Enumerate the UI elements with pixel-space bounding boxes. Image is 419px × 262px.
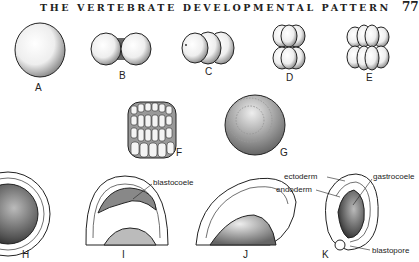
annotation-endoderm: endoderm [276, 185, 312, 194]
panel-label-h: H [22, 249, 29, 260]
panel-label-e: E [366, 72, 373, 83]
panel-label-a: A [35, 82, 42, 93]
panel-e-sixteen-cell [347, 25, 389, 70]
panel-label-k: K [322, 249, 329, 260]
panel-label-b: B [119, 70, 126, 81]
annotation-blastopore: blastopore [372, 246, 409, 255]
panel-label-i: I [122, 249, 125, 260]
panel-label-c: C [205, 66, 212, 77]
panel-label-j: J [243, 249, 248, 260]
panel-k-gastrula [316, 174, 378, 250]
panel-d-eight-cell [273, 25, 305, 69]
panel-label-f: F [176, 147, 182, 158]
panel-b-two-cell [91, 33, 151, 65]
panel-g-blastula [225, 95, 285, 155]
annotation-gastrocoele: gastrocoele [373, 172, 414, 181]
panel-h-blastula-section [0, 172, 50, 256]
panel-c-four-cell [182, 32, 234, 64]
annotation-blastocoele: blastocoele [153, 178, 193, 187]
annotation-ectoderm: ectoderm [284, 172, 317, 181]
panel-label-g: G [280, 147, 288, 158]
panel-label-d: D [286, 72, 293, 83]
panel-a-egg [15, 23, 65, 77]
panel-f-morula [128, 102, 176, 158]
